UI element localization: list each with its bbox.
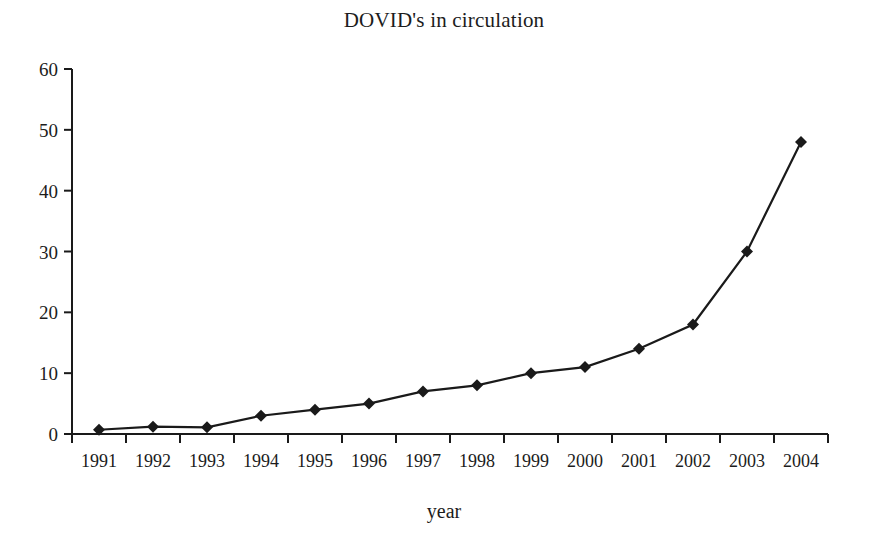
x-axis-tick-label: 2004 (783, 451, 819, 471)
x-axis-tick-label: 2001 (621, 451, 657, 471)
y-axis-tick-label: 0 (49, 424, 59, 445)
data-series-line (99, 142, 801, 430)
x-axis-tick-label: 1993 (189, 451, 225, 471)
data-point-marker (417, 385, 429, 397)
y-axis-tick-label: 30 (39, 242, 58, 263)
data-point-marker (147, 421, 159, 433)
data-point-marker (525, 367, 537, 379)
x-axis-ticks (72, 434, 828, 443)
chart-figure: DOVID's in circulation 0102030405060 199… (0, 0, 888, 549)
y-axis-tick-labels: 0102030405060 (39, 59, 58, 445)
data-point-marker (201, 421, 213, 433)
line-chart-plot: 0102030405060 19911992199319941995199619… (0, 0, 888, 549)
x-axis-tick-label: 1996 (351, 451, 387, 471)
x-axis-tick-label: 1999 (513, 451, 549, 471)
y-axis-tick-label: 20 (39, 302, 58, 323)
x-axis-tick-label: 1995 (297, 451, 333, 471)
data-point-marker (255, 410, 267, 422)
data-point-marker (471, 379, 483, 391)
x-axis-tick-label: 1998 (459, 451, 495, 471)
data-point-marker (633, 343, 645, 355)
data-point-marker (795, 136, 807, 148)
data-point-marker (579, 361, 591, 373)
x-axis-tick-label: 2002 (675, 451, 711, 471)
y-axis-ticks (64, 69, 72, 434)
y-axis-tick-label: 40 (39, 181, 58, 202)
x-axis-tick-label: 2003 (729, 451, 765, 471)
data-point-marker (363, 398, 375, 410)
x-axis-tick-label: 1994 (243, 451, 279, 471)
data-point-marker (309, 404, 321, 416)
y-axis-tick-label: 50 (39, 120, 58, 141)
x-axis-tick-labels: 1991199219931994199519961997199819992000… (81, 451, 819, 471)
y-axis-tick-label: 10 (39, 363, 58, 384)
x-axis-tick-label: 2000 (567, 451, 603, 471)
x-axis-tick-label: 1992 (135, 451, 171, 471)
data-point-markers (93, 136, 807, 436)
y-axis-tick-label: 60 (39, 59, 58, 80)
x-axis-title: year (0, 500, 888, 523)
x-axis-tick-label: 1997 (405, 451, 441, 471)
x-axis-tick-label: 1991 (81, 451, 117, 471)
